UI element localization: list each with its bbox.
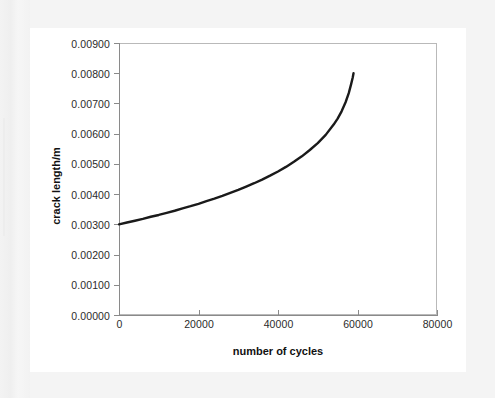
y-axis-tick-label: 0.00900 [71, 38, 110, 50]
y-axis-tick-label: 0.00600 [71, 128, 110, 140]
x-axis-tick: 40000 [278, 310, 279, 316]
y-axis-tick: 0.00200 [114, 255, 119, 256]
y-axis-tick: 0.00400 [114, 194, 119, 195]
x-axis-tick: 20000 [199, 310, 200, 316]
y-axis-tick-label: 0.00700 [71, 98, 110, 110]
y-axis-tick: 0.00800 [114, 73, 119, 74]
x-axis-tick: 0 [119, 310, 120, 316]
y-axis-tick: 0.00100 [114, 285, 119, 286]
y-axis-line [119, 43, 120, 316]
y-axis-tick: 0.00600 [114, 134, 119, 135]
y-axis-tick: 0.00900 [114, 43, 119, 44]
y-axis-tick-label: 0.00400 [71, 189, 110, 201]
y-axis-tick: 0.00300 [114, 224, 119, 225]
y-axis-tick-label: 0.00100 [71, 279, 110, 291]
chart-card: 0.000000.001000.002000.003000.004000.005… [30, 28, 466, 372]
x-axis-tick-label: 80000 [423, 318, 453, 330]
y-axis-tick: 0.00700 [114, 103, 119, 104]
x-axis-tick: 80000 [437, 310, 438, 316]
x-axis-tick-label: 60000 [343, 318, 373, 330]
y-axis-tick-label: 0.00300 [71, 219, 110, 231]
plot-area [119, 43, 437, 315]
x-axis-tick-label: 20000 [184, 318, 214, 330]
x-axis-tick-label: 40000 [264, 318, 294, 330]
x-axis-tick-label: 0 [117, 318, 123, 330]
scan-artifact-bar [3, 118, 5, 236]
x-axis-title: number of cycles [119, 345, 437, 357]
y-axis-title: crack length/m [50, 111, 62, 261]
y-axis-tick-label: 0.00500 [71, 158, 110, 170]
chart-canvas: 0.000000.001000.002000.003000.004000.005… [30, 28, 466, 372]
y-axis-tick-label: 0.00200 [71, 249, 110, 261]
y-axis-tick-label: 0.00000 [71, 310, 110, 322]
y-axis-tick-label: 0.00800 [71, 68, 110, 80]
x-axis-tick: 60000 [358, 310, 359, 316]
y-axis-tick: 0.00500 [114, 164, 119, 165]
